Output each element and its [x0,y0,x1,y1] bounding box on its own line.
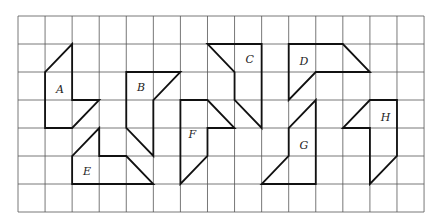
shape-label-f: F [188,128,197,141]
shape-label-g: G [300,139,309,152]
shape-label-b: B [136,81,145,94]
grid-canvas: ABCDEFGH [0,0,440,221]
shape-label-d: D [299,55,309,68]
shape-label-c: C [245,53,254,66]
shape-label-e: E [82,165,91,178]
grid-diagram: ABCDEFGH [0,0,440,221]
shape-label-a: A [55,83,64,96]
shapes-layer [45,44,397,184]
shape-label-h: H [380,111,391,124]
